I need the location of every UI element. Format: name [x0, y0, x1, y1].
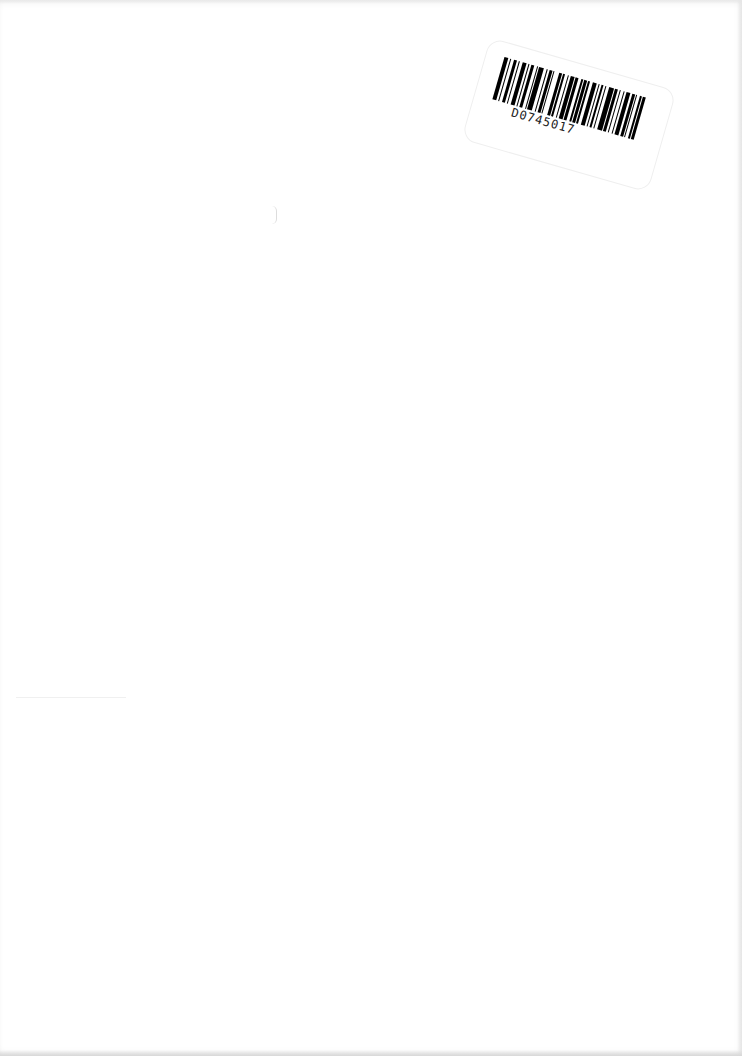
barcode-sticker: D0745017: [461, 37, 677, 192]
stray-mark: [272, 206, 277, 224]
scan-edge-bottom: [0, 1050, 742, 1056]
scanned-page: D0745017: [0, 0, 742, 1056]
scan-edge-top: [0, 0, 742, 4]
scan-edge-right: [737, 0, 742, 1056]
faint-line: [16, 697, 126, 698]
